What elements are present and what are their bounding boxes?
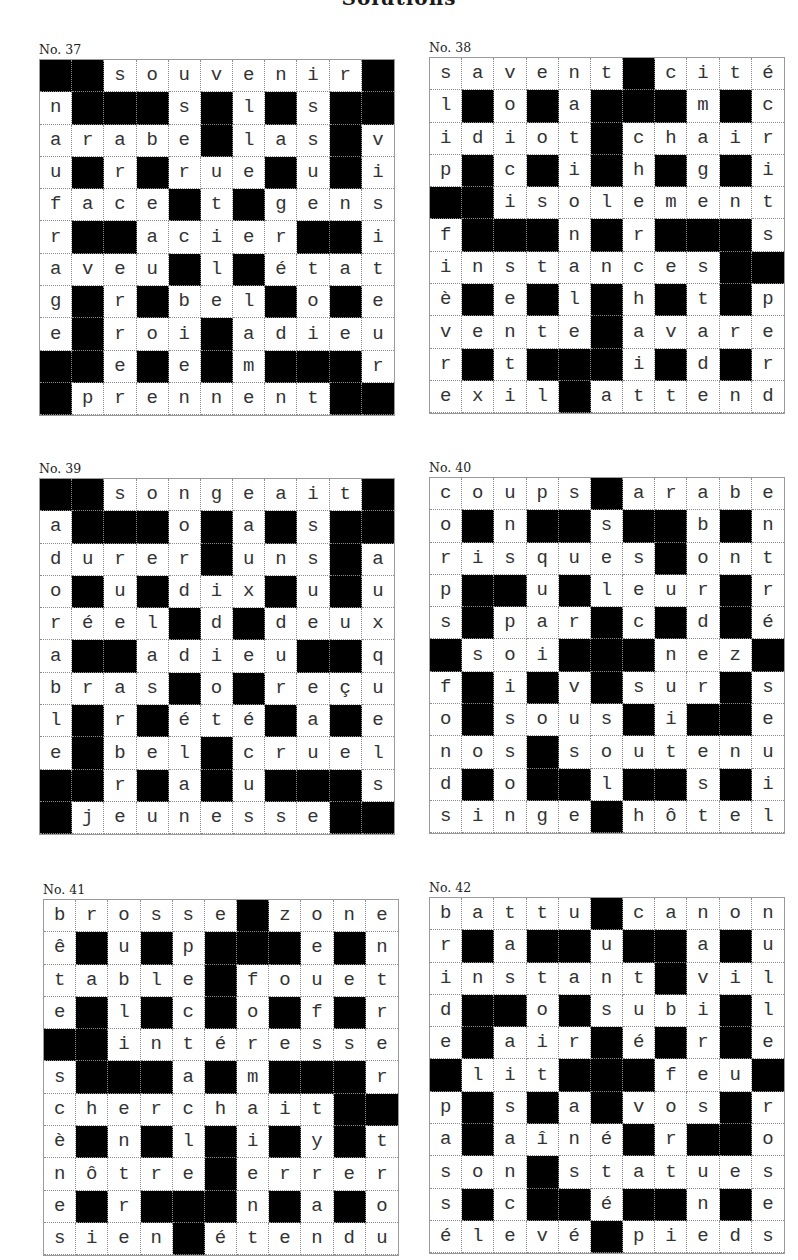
letter-cell: q xyxy=(362,640,394,672)
letter-cell: e xyxy=(297,189,329,221)
letter-cell: a xyxy=(687,930,719,962)
letter-cell: o xyxy=(559,187,591,219)
black-square xyxy=(623,1124,655,1156)
black-square xyxy=(720,575,752,607)
black-square xyxy=(362,511,394,543)
letter-cell: e xyxy=(201,286,233,318)
letter-cell: i xyxy=(655,1221,687,1253)
letter-cell: u xyxy=(591,930,623,962)
letter-cell: u xyxy=(137,802,169,834)
letter-cell: c xyxy=(655,58,687,90)
black-square xyxy=(237,932,269,964)
crossword-grid: battucanonrauauinstantvildosubileairérel… xyxy=(429,897,785,1254)
black-square xyxy=(334,932,366,964)
black-square xyxy=(76,1061,108,1093)
black-square xyxy=(205,997,237,1029)
black-square xyxy=(720,90,752,122)
letter-cell: r xyxy=(366,1061,398,1093)
letter-cell: a xyxy=(494,1027,526,1059)
letter-cell: d xyxy=(430,769,462,801)
letter-cell: è xyxy=(44,1126,76,1158)
letter-cell: t xyxy=(201,705,233,737)
letter-cell: i xyxy=(462,801,494,833)
black-square xyxy=(72,479,104,511)
black-square xyxy=(265,511,297,543)
letter-cell: é xyxy=(591,1124,623,1156)
letter-cell: i xyxy=(430,963,462,995)
letter-cell: e xyxy=(137,189,169,221)
letter-cell: m xyxy=(237,1061,269,1093)
letter-cell: s xyxy=(141,900,173,932)
letter-cell: b xyxy=(44,900,76,932)
letter-cell: g xyxy=(201,479,233,511)
black-square xyxy=(720,219,752,251)
black-square xyxy=(591,607,623,639)
black-square xyxy=(591,639,623,671)
letter-cell: i xyxy=(752,155,784,187)
letter-cell: o xyxy=(40,576,72,608)
letter-cell: r xyxy=(362,351,394,383)
letter-cell: s xyxy=(591,704,623,736)
letter-cell: e xyxy=(233,383,265,415)
letter-cell: a xyxy=(430,1124,462,1156)
letter-cell: e xyxy=(559,801,591,833)
letter-cell: t xyxy=(752,187,784,219)
letter-cell: h xyxy=(76,1094,108,1126)
letter-cell: r xyxy=(108,1191,140,1223)
letter-cell: v xyxy=(430,316,462,348)
letter-cell: r xyxy=(141,1158,173,1190)
letter-cell: e xyxy=(687,187,719,219)
black-square xyxy=(330,92,362,124)
black-square xyxy=(655,1027,687,1059)
letter-cell: d xyxy=(201,608,233,640)
letter-cell: r xyxy=(104,770,136,802)
crossword-grid: saventcitéloamcidiotchairpcihgiisolement… xyxy=(429,57,785,414)
black-square xyxy=(40,770,72,802)
black-square xyxy=(330,383,362,415)
letter-cell: a xyxy=(559,963,591,995)
letter-cell: n xyxy=(265,544,297,576)
letter-cell: t xyxy=(44,965,76,997)
letter-cell: l xyxy=(430,90,462,122)
black-square xyxy=(591,1027,623,1059)
letter-cell: e xyxy=(623,575,655,607)
black-square xyxy=(104,511,136,543)
letter-cell: e xyxy=(169,125,201,157)
letter-cell: n xyxy=(687,1189,719,1221)
letter-cell: p xyxy=(623,1221,655,1253)
letter-cell: r xyxy=(104,318,136,350)
letter-cell: u xyxy=(108,932,140,964)
letter-cell: t xyxy=(494,898,526,930)
letter-cell: a xyxy=(591,381,623,413)
black-square xyxy=(330,705,362,737)
crossword-grid: coupsarabeonsbnrisquesontpuleurrsparcdés… xyxy=(429,477,785,834)
letter-cell: b xyxy=(104,737,136,769)
letter-cell: ç xyxy=(330,673,362,705)
letter-cell: a xyxy=(137,640,169,672)
letter-cell: v xyxy=(527,1221,559,1253)
letter-cell: z xyxy=(269,900,301,932)
letter-cell: u xyxy=(297,737,329,769)
black-square xyxy=(591,1059,623,1091)
letter-cell: v xyxy=(655,316,687,348)
letter-cell: n xyxy=(591,252,623,284)
letter-cell: n xyxy=(687,898,719,930)
letter-cell: r xyxy=(430,543,462,575)
letter-cell: a xyxy=(265,125,297,157)
black-square xyxy=(720,995,752,1027)
black-square xyxy=(623,58,655,90)
letter-cell: e xyxy=(494,284,526,316)
black-square xyxy=(233,673,265,705)
letter-cell: t xyxy=(527,963,559,995)
black-square xyxy=(623,510,655,542)
letter-cell: n xyxy=(430,736,462,768)
letter-cell: r xyxy=(265,737,297,769)
letter-cell: d xyxy=(752,381,784,413)
letter-cell: é xyxy=(559,1221,591,1253)
letter-cell: n xyxy=(559,219,591,251)
letter-cell: g xyxy=(527,801,559,833)
black-square xyxy=(76,1126,108,1158)
letter-cell: i xyxy=(201,221,233,253)
black-square xyxy=(591,155,623,187)
letter-cell: s xyxy=(752,1156,784,1188)
